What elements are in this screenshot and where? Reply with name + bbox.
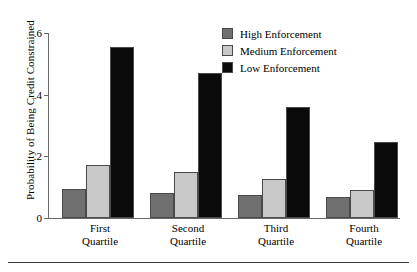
footer-rule bbox=[8, 262, 409, 263]
bar-high-enforcement bbox=[326, 197, 350, 218]
x-axis-line bbox=[48, 218, 400, 219]
legend-item-medium-enforcement: Medium Enforcement bbox=[222, 43, 337, 58]
legend-label-high-enforcement: High Enforcement bbox=[240, 28, 322, 40]
legend-item-low-enforcement: Low Enforcement bbox=[222, 60, 337, 75]
bar-medium-enforcement bbox=[86, 165, 110, 218]
bar-low-enforcement bbox=[374, 142, 398, 218]
y-axis-line bbox=[48, 33, 49, 218]
legend-item-high-enforcement: High Enforcement bbox=[222, 26, 337, 41]
y-tick-mark bbox=[44, 156, 48, 157]
legend-swatch-low-enforcement bbox=[222, 62, 233, 73]
legend-label-low-enforcement: Low Enforcement bbox=[240, 62, 320, 74]
legend-swatch-medium-enforcement bbox=[222, 45, 233, 56]
x-tick-label-fourth-quartile: Fourth Quartile bbox=[309, 222, 417, 248]
y-tick-mark bbox=[44, 218, 48, 219]
legend-label-medium-enforcement: Medium Enforcement bbox=[240, 45, 337, 57]
y-axis-title: Probability of Being Credit Constrained bbox=[24, 10, 36, 210]
y-tick-label: 0 bbox=[37, 212, 43, 224]
bar-high-enforcement bbox=[62, 189, 86, 218]
bar-low-enforcement bbox=[110, 47, 134, 218]
bar-chart-figure: Probability of Being Credit Constrained … bbox=[0, 0, 417, 272]
y-tick-label: .2 bbox=[34, 150, 42, 162]
legend-swatch-high-enforcement bbox=[222, 28, 233, 39]
y-tick-mark bbox=[44, 95, 48, 96]
y-tick-label: .6 bbox=[34, 27, 42, 39]
bar-high-enforcement bbox=[150, 193, 174, 218]
y-tick-label: .4 bbox=[34, 89, 42, 101]
bar-high-enforcement bbox=[238, 195, 262, 218]
bar-medium-enforcement bbox=[262, 179, 286, 218]
x-tick-label-line2: Quartile bbox=[309, 235, 417, 248]
bar-low-enforcement bbox=[198, 73, 222, 218]
x-tick-label-line1: Fourth bbox=[309, 222, 417, 235]
bar-medium-enforcement bbox=[350, 190, 374, 218]
chart-legend: High Enforcement Medium Enforcement Low … bbox=[222, 26, 337, 77]
bar-medium-enforcement bbox=[174, 172, 198, 218]
y-tick-mark bbox=[44, 33, 48, 34]
bar-low-enforcement bbox=[286, 107, 310, 218]
